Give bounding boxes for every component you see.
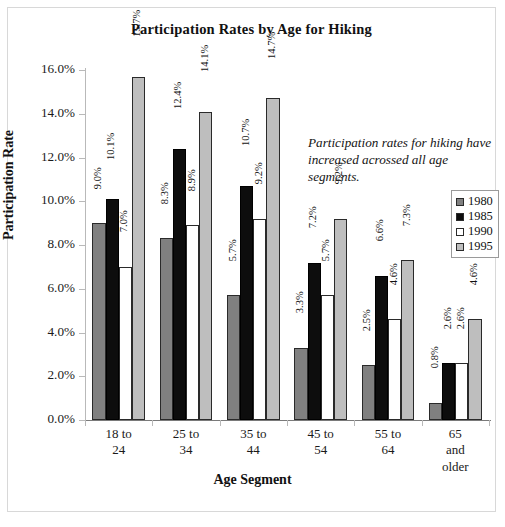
bar-slot: 3.3% [294, 70, 307, 420]
bar-1990-55-to-64[interactable] [388, 319, 401, 420]
bar-value-label: 2.6% [456, 307, 467, 329]
bar-1980-25-to-34[interactable] [160, 238, 173, 420]
x-axis-category-label-line: 34 [152, 442, 219, 458]
bar-slot: 10.7% [240, 70, 253, 420]
bar-value-label: 10.1% [106, 132, 117, 159]
plot-area: 9.0%10.1%7.0%15.7%8.3%12.4%8.9%14.1%5.7%… [85, 70, 489, 420]
y-axis-tick-label: 14.0% [41, 105, 75, 121]
bar-1990-45-to-54[interactable] [321, 295, 334, 420]
bar-1995-65-and-older[interactable] [468, 319, 481, 420]
x-axis-category-label-line: older [422, 459, 489, 475]
x-axis-category-label: 18 to24 [85, 426, 152, 459]
legend-swatch-icon [456, 228, 464, 236]
bar-slot: 9.0% [92, 70, 105, 420]
y-axis-tick-label: 2.0% [48, 367, 75, 383]
bar-1990-18-to-24[interactable] [119, 267, 132, 420]
x-axis-category-label-line: 54 [287, 442, 354, 458]
bar-value-label: 2.6% [443, 307, 454, 329]
x-axis-category-label-line: 44 [220, 442, 287, 458]
bar-group: 5.7%10.7%9.2%14.7% [227, 70, 280, 420]
y-axis-tick-label: 0.0% [48, 411, 75, 427]
y-axis-tick-label: 12.0% [41, 149, 75, 165]
y-axis-tick-label: 16.0% [41, 61, 75, 77]
bar-cluster: 5.7%10.7%9.2%14.7% [227, 70, 280, 420]
bar-slot: 9.2% [334, 70, 347, 420]
legend-item-1980[interactable]: 1980 [456, 194, 493, 209]
x-axis-category-label: 55 to64 [354, 426, 421, 459]
bar-1990-35-to-44[interactable] [253, 219, 266, 420]
bar-value-label: 5.7% [228, 239, 239, 261]
bar-slot: 7.3% [401, 70, 414, 420]
bar-cluster: 2.5%6.6%4.6%7.3% [362, 70, 415, 420]
bar-1980-18-to-24[interactable] [92, 223, 105, 420]
y-axis-tick-label: 4.0% [48, 324, 75, 340]
bar-value-label: 4.6% [469, 263, 480, 285]
bar-1990-25-to-34[interactable] [186, 225, 199, 420]
bar-1995-45-to-54[interactable] [334, 219, 347, 420]
x-axis-category-label-line: 64 [354, 442, 421, 458]
bar-1980-55-to-64[interactable] [362, 365, 375, 420]
bar-slot: 10.1% [106, 70, 119, 420]
bar-value-label: 12.4% [173, 82, 184, 109]
x-axis-category-label-line: 45 to [287, 426, 354, 442]
legend-item-1985[interactable]: 1985 [456, 209, 493, 224]
x-axis-category-label-line: 65 [422, 426, 489, 442]
chart-annotation: Participation rates for hiking have incr… [308, 134, 493, 185]
bar-value-label: 4.6% [389, 263, 400, 285]
bar-1985-18-to-24[interactable] [106, 199, 119, 420]
bar-1980-65-and-older[interactable] [429, 403, 442, 421]
bar-slot: 8.3% [160, 70, 173, 420]
bar-1995-55-to-64[interactable] [401, 260, 414, 420]
bar-slot: 5.7% [321, 70, 334, 420]
bar-1985-25-to-34[interactable] [173, 149, 186, 420]
x-axis-line [85, 420, 491, 421]
bar-slot: 9.2% [253, 70, 266, 420]
x-axis-category-label: 45 to54 [287, 426, 354, 459]
bar-1995-18-to-24[interactable] [132, 77, 145, 420]
bar-slot: 2.5% [362, 70, 375, 420]
x-axis-tick-mark [489, 420, 490, 426]
y-axis-title: Participation Rate [1, 130, 17, 240]
x-axis-category-label-line: 24 [85, 442, 152, 458]
bar-slot: 14.7% [266, 70, 279, 420]
bar-1995-25-to-34[interactable] [199, 112, 212, 420]
bar-value-label: 7.2% [308, 206, 319, 228]
bar-value-label: 9.0% [93, 167, 104, 189]
legend-swatch-icon [456, 213, 464, 221]
bar-value-label: 15.7% [132, 10, 143, 37]
bar-1985-55-to-64[interactable] [375, 276, 388, 420]
bar-value-label: 8.9% [187, 169, 198, 191]
bar-1980-35-to-44[interactable] [227, 295, 240, 420]
bar-value-label: 2.5% [362, 309, 373, 331]
bar-value-label: 8.3% [160, 182, 171, 204]
bar-slot: 14.1% [199, 70, 212, 420]
bar-group: 3.3%7.2%5.7%9.2% [294, 70, 347, 420]
legend-item-1995[interactable]: 1995 [456, 239, 493, 254]
bar-group: 8.3%12.4%8.9%14.1% [160, 70, 213, 420]
chart-title: Participation Rates by Age for Hiking [8, 21, 495, 38]
y-axis-tick-label: 10.0% [41, 192, 75, 208]
bar-1985-45-to-54[interactable] [308, 263, 321, 421]
legend-label: 1990 [468, 224, 493, 239]
bar-value-label: 14.1% [200, 45, 211, 72]
legend-item-1990[interactable]: 1990 [456, 224, 493, 239]
bar-value-label: 5.7% [321, 239, 332, 261]
legend-swatch-icon [456, 243, 464, 251]
bar-1995-35-to-44[interactable] [266, 98, 279, 420]
bar-1985-65-and-older[interactable] [442, 363, 455, 420]
bar-slot: 8.9% [186, 70, 199, 420]
chart-legend: 1980198519901995 [451, 190, 499, 258]
bar-1980-45-to-54[interactable] [294, 348, 307, 420]
bar-slot: 12.4% [173, 70, 186, 420]
bar-slot: 6.6% [375, 70, 388, 420]
legend-swatch-icon [456, 198, 464, 206]
bar-1985-35-to-44[interactable] [240, 186, 253, 420]
y-axis-tick-label: 8.0% [48, 236, 75, 252]
bar-value-label: 14.7% [267, 32, 278, 59]
bar-value-label: 0.8% [430, 346, 441, 368]
bar-cluster: 9.0%10.1%7.0%15.7% [92, 70, 145, 420]
legend-label: 1980 [468, 194, 493, 209]
bar-value-label: 3.3% [295, 292, 306, 314]
y-axis-tick-label: 6.0% [48, 280, 75, 296]
bar-1990-65-and-older[interactable] [455, 363, 468, 420]
